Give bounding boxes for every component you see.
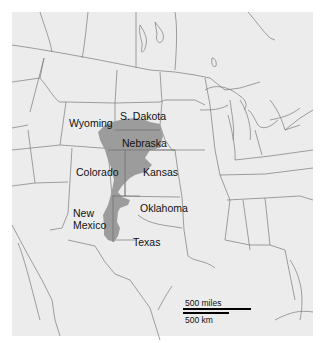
label-kansas: Kansas: [143, 167, 178, 178]
label-oklahoma: Oklahoma: [140, 203, 188, 214]
scale-km-label: 500 km: [185, 315, 213, 325]
scale-miles-label: 500 miles: [185, 298, 221, 308]
label-nebraska: Nebraska: [122, 138, 167, 149]
label-new-mexico-line2: Mexico: [73, 220, 106, 231]
label-south-dakota: S. Dakota: [120, 111, 166, 122]
label-texas: Texas: [133, 237, 160, 248]
label-new-mexico-line1: New: [73, 208, 94, 219]
label-wyoming: Wyoming: [69, 118, 113, 129]
label-colorado: Colorado: [76, 167, 119, 178]
